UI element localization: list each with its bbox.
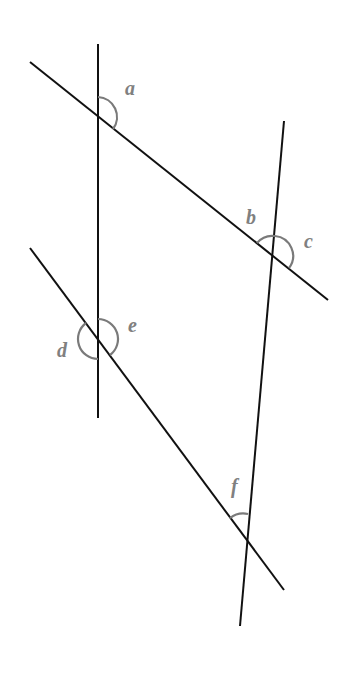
angle-arc-d [78, 323, 98, 359]
angle-arc-e [98, 319, 118, 355]
angle-label-f: f [231, 475, 240, 498]
angle-diagram: a b c d e f [0, 0, 338, 676]
angle-label-e: e [128, 314, 137, 336]
diagonal-line-top [30, 62, 328, 300]
slanted-line-right [240, 121, 284, 626]
angle-arc-f [230, 513, 248, 518]
angle-arc-c [275, 236, 293, 268]
angle-label-a: a [125, 77, 135, 99]
angle-label-d: d [57, 339, 68, 361]
diagonal-line-bottom [30, 248, 284, 590]
angle-label-c: c [304, 230, 313, 252]
angle-label-b: b [246, 206, 256, 228]
angle-arc-b [257, 236, 275, 243]
